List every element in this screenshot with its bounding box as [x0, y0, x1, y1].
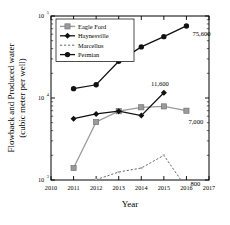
- data-point-marker: [184, 23, 189, 28]
- x-tick-label: 2014: [135, 184, 147, 191]
- legend-label-marcellus: Marcellus: [78, 42, 104, 49]
- y-tick-label: 10: [38, 12, 44, 19]
- y-tick-label: 10: [38, 176, 44, 183]
- legend-label-permian: Permian: [78, 51, 100, 58]
- chart-figure: 1051041032010201120122013201420152016201…: [0, 0, 230, 225]
- y-tick-label: 10: [38, 94, 44, 101]
- x-tick-label: 2017: [203, 184, 215, 191]
- annotation-marcellus: 800: [190, 180, 201, 187]
- data-point-marker: [140, 167, 142, 169]
- x-tick-label: 2010: [45, 184, 57, 191]
- data-point-marker: [163, 154, 165, 156]
- x-tick-label: 2011: [67, 184, 79, 191]
- annotation-permian: 75,600: [192, 30, 211, 37]
- legend-label-eagle-ford: Eagle Ford: [78, 23, 107, 30]
- data-point-marker: [184, 108, 189, 113]
- data-point-marker: [71, 116, 77, 122]
- y-tick-exponent: 5: [47, 10, 49, 15]
- y-tick-exponent: 4: [47, 92, 50, 97]
- x-tick-label: 2012: [90, 184, 102, 191]
- x-tick-label: 2013: [113, 184, 125, 191]
- data-point-marker: [71, 86, 76, 91]
- data-point-marker: [94, 119, 99, 124]
- data-point-marker: [65, 52, 70, 57]
- annotation-eagle-ford: 7,000: [188, 118, 204, 125]
- annotation-haynesville: 11,600: [151, 80, 170, 87]
- y-tick-exponent: 3: [47, 174, 49, 179]
- series-haynesville: [71, 90, 167, 122]
- chart-canvas: 1051041032010201120122013201420152016201…: [0, 0, 230, 225]
- x-tick-label: 2015: [158, 184, 170, 191]
- data-point-marker: [93, 82, 98, 87]
- data-point-marker: [118, 171, 120, 173]
- data-point-marker: [161, 34, 166, 39]
- data-point-marker: [65, 24, 70, 29]
- data-point-marker: [71, 165, 76, 170]
- data-point-marker: [139, 105, 144, 110]
- y-axis-title-line2: (cubic meter per well): [17, 58, 27, 138]
- y-axis-title-line1: Flowback and Produced water: [6, 43, 16, 152]
- data-point-marker: [93, 111, 99, 117]
- legend-label-haynesville: Haynesville: [78, 32, 109, 39]
- series-line: [74, 93, 164, 119]
- data-point-marker: [161, 104, 166, 109]
- x-axis-title: Year: [122, 199, 139, 209]
- data-point-marker: [139, 44, 144, 49]
